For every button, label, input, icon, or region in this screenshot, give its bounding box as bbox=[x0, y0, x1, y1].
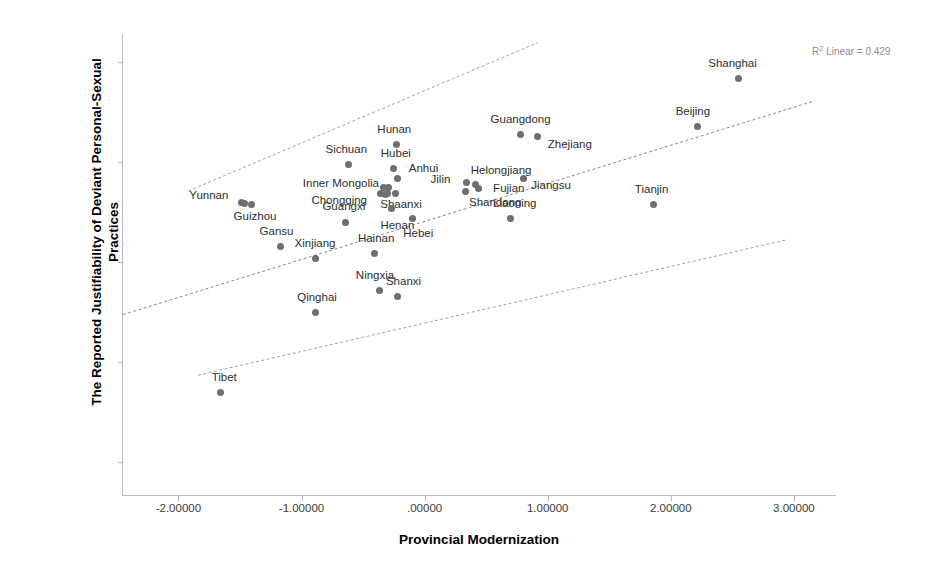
x-tick-label: 3.00000 bbox=[734, 502, 854, 514]
fit-and-confidence-lines bbox=[123, 34, 837, 496]
data-point[interactable] bbox=[694, 123, 701, 130]
x-tick-mark bbox=[178, 496, 179, 501]
y-tick-mark bbox=[118, 462, 123, 463]
data-point[interactable] bbox=[475, 185, 482, 192]
data-point[interactable] bbox=[385, 184, 392, 191]
data-point-label: Qinghai bbox=[297, 291, 337, 303]
scatter-plot-figure: The Reported Justifiability of Deviant P… bbox=[0, 0, 938, 570]
data-point[interactable] bbox=[392, 190, 399, 197]
data-point-label: Guizhou bbox=[234, 210, 277, 222]
data-point-label: Tibet bbox=[212, 371, 237, 383]
x-tick-mark bbox=[425, 496, 426, 501]
data-point-label: Jilin bbox=[431, 173, 451, 185]
data-point[interactable] bbox=[388, 205, 395, 212]
data-point[interactable] bbox=[312, 255, 319, 262]
data-point[interactable] bbox=[507, 215, 514, 222]
data-point-label: Tianjin bbox=[635, 183, 668, 195]
data-point[interactable] bbox=[371, 250, 378, 257]
data-point-label: Ningxia bbox=[356, 269, 394, 281]
data-point-label: Hunan bbox=[377, 123, 411, 135]
data-point-label: Zhejiang bbox=[548, 138, 592, 150]
data-point-label: Shanghai bbox=[708, 57, 757, 69]
plot-area: 2.503.003.504.004.50-2.00000-1.00000.000… bbox=[122, 34, 836, 496]
data-point-label: Guangxi bbox=[322, 200, 365, 212]
data-point-label: Gansu bbox=[260, 225, 294, 237]
data-point[interactable] bbox=[534, 133, 541, 140]
y-axis-title: The Reported Justifiability of Deviant P… bbox=[88, 32, 122, 432]
x-tick-mark bbox=[671, 496, 672, 501]
y-tick-mark bbox=[118, 362, 123, 363]
x-tick-label: .00000 bbox=[365, 502, 485, 514]
data-point-label: Hebei bbox=[403, 227, 433, 239]
data-point[interactable] bbox=[462, 188, 469, 195]
data-point-label: Fujian bbox=[493, 182, 524, 194]
data-point[interactable] bbox=[735, 75, 742, 82]
y-tick-mark bbox=[118, 162, 123, 163]
data-point-label: Hainan bbox=[358, 232, 394, 244]
data-point[interactable] bbox=[394, 293, 401, 300]
data-point-label: Yunnan bbox=[189, 189, 228, 201]
data-point[interactable] bbox=[463, 179, 470, 186]
data-point-label: Liaoning bbox=[493, 197, 536, 209]
y-tick-mark bbox=[118, 62, 123, 63]
data-point[interactable] bbox=[382, 191, 389, 198]
x-tick-label: -2.00000 bbox=[118, 502, 238, 514]
data-point[interactable] bbox=[342, 219, 349, 226]
x-tick-mark bbox=[302, 496, 303, 501]
lower-confidence-band bbox=[198, 240, 786, 375]
data-point[interactable] bbox=[312, 309, 319, 316]
data-point-label: Beijing bbox=[676, 105, 711, 117]
x-tick-mark bbox=[548, 496, 549, 501]
x-axis-title: Provincial Modernization bbox=[122, 532, 836, 547]
data-point-label: Guangdong bbox=[491, 113, 551, 125]
data-point-label: Jiangsu bbox=[531, 179, 571, 191]
data-point-label: Inner Mongolia bbox=[303, 177, 379, 189]
data-point[interactable] bbox=[390, 165, 397, 172]
data-point[interactable] bbox=[520, 175, 527, 182]
data-point[interactable] bbox=[248, 201, 255, 208]
y-axis-title-line-2: Practices bbox=[105, 32, 122, 432]
data-point[interactable] bbox=[217, 389, 224, 396]
data-point[interactable] bbox=[517, 131, 524, 138]
x-tick-label: -1.00000 bbox=[242, 502, 362, 514]
data-point[interactable] bbox=[277, 243, 284, 250]
x-tick-label: 1.00000 bbox=[488, 502, 608, 514]
y-tick-mark bbox=[118, 262, 123, 263]
data-point-label: Shaanxi bbox=[380, 198, 422, 210]
x-tick-mark bbox=[794, 496, 795, 501]
data-point-label: Xinjiang bbox=[295, 237, 336, 249]
data-point[interactable] bbox=[376, 287, 383, 294]
data-point[interactable] bbox=[409, 215, 416, 222]
y-axis-title-line-1: The Reported Justifiability of Deviant P… bbox=[88, 32, 105, 432]
data-point-label: Sichuan bbox=[325, 143, 367, 155]
data-point[interactable] bbox=[394, 175, 401, 182]
data-point-label: Hubei bbox=[381, 147, 411, 159]
x-tick-label: 2.00000 bbox=[611, 502, 731, 514]
data-point[interactable] bbox=[345, 161, 352, 168]
data-point[interactable] bbox=[650, 201, 657, 208]
